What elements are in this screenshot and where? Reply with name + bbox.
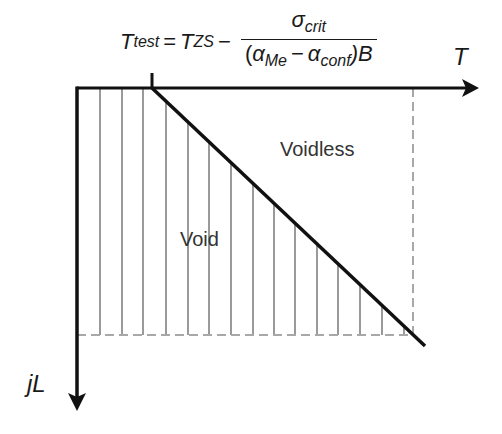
alpha-conf-subscript: conf xyxy=(320,52,350,69)
t-test-equation: Ttest = TZS − σcrit (αMe−αconf)B xyxy=(120,8,377,75)
t-test-symbol: T xyxy=(120,29,133,55)
sigma-symbol: σ xyxy=(291,7,304,32)
close-paren-b: )B xyxy=(351,41,373,66)
void-region-label: Void xyxy=(180,228,219,251)
fraction-numerator: σcrit xyxy=(287,8,330,39)
alpha-conf-symbol: α xyxy=(308,41,321,66)
t-zs-subscript: ZS xyxy=(194,33,214,51)
alpha-me-symbol: α xyxy=(252,41,265,66)
voidless-region-label: Voidless xyxy=(280,138,355,161)
denominator-minus: − xyxy=(291,41,304,66)
equals-sign: = xyxy=(163,29,176,55)
void-region-hatching xyxy=(100,88,404,335)
minus-sign: − xyxy=(218,29,231,55)
t-test-subscript: test xyxy=(133,33,159,51)
void-boundary-line xyxy=(152,88,425,346)
sigma-subscript: crit xyxy=(305,18,326,35)
y-axis-label: jL xyxy=(27,370,46,398)
x-axis-label: T xyxy=(453,43,468,71)
fraction: σcrit (αMe−αconf)B xyxy=(241,8,377,75)
t-zs-symbol: T xyxy=(180,29,193,55)
fraction-denominator: (αMe−αconf)B xyxy=(241,39,377,75)
alpha-me-subscript: Me xyxy=(265,52,287,69)
